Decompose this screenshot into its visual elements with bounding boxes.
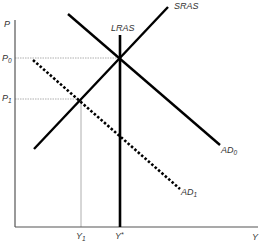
y1-label: Y1	[76, 231, 86, 242]
p0-label: P0	[2, 53, 12, 64]
y-axis-label: P	[4, 19, 10, 29]
ad1-curve	[33, 60, 180, 189]
p1-label: P1	[2, 93, 12, 104]
ad1-label: AD1	[180, 187, 198, 198]
ad0-label: AD0	[220, 145, 238, 156]
ad-as-diagram: P Y P0 P1 Y1 Y* LRAS SRAS AD0 AD1	[0, 0, 261, 243]
y-star-label: Y*	[115, 231, 124, 241]
lras-label: LRAS	[111, 23, 135, 33]
sras-label: SRAS	[174, 1, 199, 11]
x-axis-label: Y	[252, 232, 259, 242]
